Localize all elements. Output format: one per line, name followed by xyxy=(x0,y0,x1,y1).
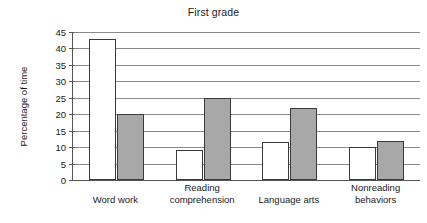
bar xyxy=(204,98,231,180)
bar xyxy=(89,39,116,180)
x-axis-label: Nonreadingbehaviors xyxy=(315,182,427,205)
y-axis-tick-label: 40 xyxy=(55,43,66,54)
y-axis-tick-label: 35 xyxy=(55,59,66,70)
chart-title: First grade xyxy=(0,6,427,18)
plot-area: 454035302520151050 xyxy=(72,32,420,180)
bars-layer xyxy=(73,32,420,180)
y-axis-tick-label: 30 xyxy=(55,76,66,87)
x-axis-label-line: Nonreading xyxy=(351,182,400,193)
bar xyxy=(176,150,203,180)
y-axis-tick-label: 0 xyxy=(61,175,66,186)
x-axis-category-labels: Word workReadingcomprehensionLanguage ar… xyxy=(72,182,420,222)
y-axis-tick-label: 25 xyxy=(55,92,66,103)
bar xyxy=(290,108,317,180)
x-axis-label-line: behaviors xyxy=(315,194,427,206)
bar xyxy=(377,141,404,180)
y-axis-tick-label: 5 xyxy=(61,158,66,169)
bar xyxy=(262,142,289,180)
y-axis-tick-label: 15 xyxy=(55,125,66,136)
y-axis-tick xyxy=(69,180,74,181)
bar xyxy=(117,114,144,180)
bar xyxy=(349,147,376,180)
y-axis-tick-label: 20 xyxy=(55,109,66,120)
gridline xyxy=(73,180,420,181)
bar-chart: First grade Percentage of time 454035302… xyxy=(0,0,427,223)
x-axis-label-line: Reading xyxy=(184,182,219,193)
y-axis-tick-label: 10 xyxy=(55,142,66,153)
y-axis-title: Percentage of time xyxy=(18,47,29,167)
y-axis-tick-label: 45 xyxy=(55,27,66,38)
